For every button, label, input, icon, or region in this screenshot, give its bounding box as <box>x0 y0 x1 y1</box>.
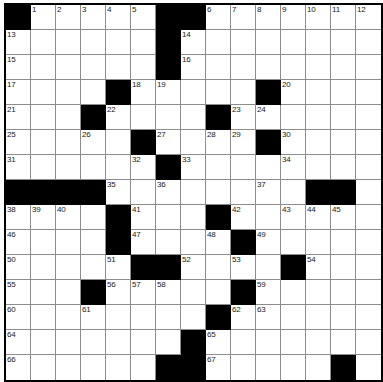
grid-cell[interactable] <box>56 130 81 155</box>
grid-cell[interactable] <box>256 205 281 230</box>
grid-cell[interactable]: 18 <box>131 80 156 105</box>
grid-cell[interactable] <box>331 30 356 55</box>
grid-cell[interactable]: 28 <box>206 130 231 155</box>
grid-cell[interactable] <box>181 280 206 305</box>
grid-cell[interactable] <box>306 330 331 355</box>
grid-cell[interactable] <box>81 80 106 105</box>
grid-cell[interactable]: 24 <box>256 105 281 130</box>
grid-cell[interactable]: 22 <box>106 105 131 130</box>
grid-cell[interactable] <box>356 105 381 130</box>
grid-cell[interactable] <box>106 55 131 80</box>
grid-cell[interactable] <box>306 155 331 180</box>
grid-cell[interactable]: 27 <box>156 130 181 155</box>
grid-cell[interactable]: 4 <box>106 5 131 30</box>
grid-cell[interactable]: 35 <box>106 180 131 205</box>
grid-cell[interactable] <box>31 80 56 105</box>
grid-cell[interactable] <box>356 205 381 230</box>
grid-cell[interactable] <box>81 330 106 355</box>
grid-cell[interactable] <box>256 255 281 280</box>
grid-cell[interactable] <box>56 155 81 180</box>
grid-cell[interactable]: 39 <box>31 205 56 230</box>
grid-cell[interactable] <box>231 330 256 355</box>
grid-cell[interactable]: 5 <box>131 5 156 30</box>
grid-cell[interactable]: 63 <box>256 305 281 330</box>
grid-cell[interactable] <box>56 80 81 105</box>
grid-cell[interactable] <box>131 55 156 80</box>
grid-cell[interactable] <box>31 230 56 255</box>
grid-cell[interactable] <box>56 55 81 80</box>
grid-cell[interactable] <box>81 355 106 380</box>
grid-cell[interactable] <box>331 55 356 80</box>
grid-cell[interactable]: 41 <box>131 205 156 230</box>
grid-cell[interactable] <box>231 180 256 205</box>
grid-cell[interactable] <box>156 305 181 330</box>
grid-cell[interactable]: 17 <box>6 80 31 105</box>
grid-cell[interactable]: 52 <box>181 255 206 280</box>
grid-cell[interactable] <box>131 355 156 380</box>
grid-cell[interactable] <box>356 355 381 380</box>
grid-cell[interactable]: 57 <box>131 280 156 305</box>
grid-cell[interactable] <box>56 280 81 305</box>
grid-cell[interactable] <box>31 330 56 355</box>
grid-cell[interactable]: 2 <box>56 5 81 30</box>
grid-cell[interactable] <box>31 255 56 280</box>
grid-cell[interactable] <box>306 30 331 55</box>
grid-cell[interactable]: 14 <box>181 30 206 55</box>
grid-cell[interactable] <box>281 230 306 255</box>
grid-cell[interactable]: 33 <box>181 155 206 180</box>
grid-cell[interactable] <box>231 155 256 180</box>
grid-cell[interactable] <box>306 230 331 255</box>
grid-cell[interactable] <box>131 330 156 355</box>
grid-cell[interactable] <box>356 280 381 305</box>
grid-cell[interactable] <box>81 205 106 230</box>
grid-cell[interactable]: 50 <box>6 255 31 280</box>
grid-cell[interactable] <box>281 55 306 80</box>
grid-cell[interactable]: 20 <box>281 80 306 105</box>
grid-cell[interactable] <box>131 105 156 130</box>
grid-cell[interactable]: 3 <box>81 5 106 30</box>
grid-cell[interactable]: 34 <box>281 155 306 180</box>
grid-cell[interactable] <box>131 180 156 205</box>
grid-cell[interactable] <box>156 205 181 230</box>
grid-cell[interactable]: 1 <box>31 5 56 30</box>
grid-cell[interactable] <box>356 230 381 255</box>
grid-cell[interactable]: 19 <box>156 80 181 105</box>
grid-cell[interactable]: 26 <box>81 130 106 155</box>
grid-cell[interactable] <box>81 55 106 80</box>
grid-cell[interactable] <box>356 180 381 205</box>
grid-cell[interactable] <box>306 55 331 80</box>
grid-cell[interactable] <box>181 205 206 230</box>
grid-cell[interactable]: 21 <box>6 105 31 130</box>
grid-cell[interactable] <box>331 105 356 130</box>
grid-cell[interactable]: 43 <box>281 205 306 230</box>
grid-cell[interactable] <box>106 130 131 155</box>
grid-cell[interactable] <box>56 30 81 55</box>
grid-cell[interactable] <box>356 30 381 55</box>
grid-cell[interactable]: 38 <box>6 205 31 230</box>
grid-cell[interactable]: 45 <box>331 205 356 230</box>
grid-cell[interactable] <box>356 255 381 280</box>
grid-cell[interactable] <box>231 80 256 105</box>
grid-cell[interactable]: 62 <box>231 305 256 330</box>
grid-cell[interactable] <box>306 130 331 155</box>
grid-cell[interactable]: 51 <box>106 255 131 280</box>
grid-cell[interactable]: 49 <box>256 230 281 255</box>
grid-cell[interactable] <box>281 280 306 305</box>
grid-cell[interactable] <box>156 230 181 255</box>
grid-cell[interactable] <box>231 55 256 80</box>
grid-cell[interactable] <box>206 155 231 180</box>
grid-cell[interactable]: 48 <box>206 230 231 255</box>
grid-cell[interactable] <box>181 305 206 330</box>
grid-cell[interactable]: 25 <box>6 130 31 155</box>
grid-cell[interactable] <box>156 105 181 130</box>
grid-cell[interactable]: 36 <box>156 180 181 205</box>
grid-cell[interactable]: 10 <box>306 5 331 30</box>
grid-cell[interactable] <box>181 180 206 205</box>
grid-cell[interactable]: 66 <box>6 355 31 380</box>
grid-cell[interactable] <box>181 80 206 105</box>
grid-cell[interactable]: 32 <box>131 155 156 180</box>
grid-cell[interactable] <box>206 280 231 305</box>
grid-cell[interactable] <box>106 30 131 55</box>
grid-cell[interactable] <box>306 80 331 105</box>
grid-cell[interactable]: 40 <box>56 205 81 230</box>
